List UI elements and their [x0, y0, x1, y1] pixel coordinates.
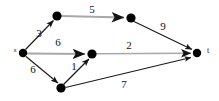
node-t[interactable] [193, 49, 201, 57]
edge-weight-v4-t: 7 [121, 79, 127, 90]
edge-weight-v4-v3: 1 [71, 61, 77, 72]
node-v3[interactable] [87, 49, 96, 58]
node-v1[interactable] [52, 11, 61, 20]
edge-v4-t [66, 58, 192, 88]
node-layer [19, 11, 201, 92]
edge-weight-s-v1: 3 [36, 28, 42, 39]
node-s[interactable] [19, 49, 27, 57]
edge-weight-v3-t: 2 [126, 40, 132, 51]
node-label-t: t [207, 47, 209, 55]
node-label-s: s [14, 47, 17, 54]
edge-weight-s-v4: 6 [30, 64, 36, 75]
edge-layer [26, 16, 193, 88]
graph-canvas [0, 0, 219, 101]
edge-weight-v1-v2: 5 [89, 4, 95, 15]
node-v2[interactable] [126, 13, 135, 22]
edge-s-v3 [27, 54, 85, 55]
edge-v3-t [96, 53, 191, 54]
edge-v1-v2 [61, 16, 124, 18]
graph-diagram: 3 5 9 6 2 6 1 7 s t [0, 0, 219, 101]
edge-weight-v2-t: 9 [160, 21, 166, 32]
edge-weight-s-v3: 6 [55, 37, 61, 48]
node-v4[interactable] [56, 83, 65, 92]
